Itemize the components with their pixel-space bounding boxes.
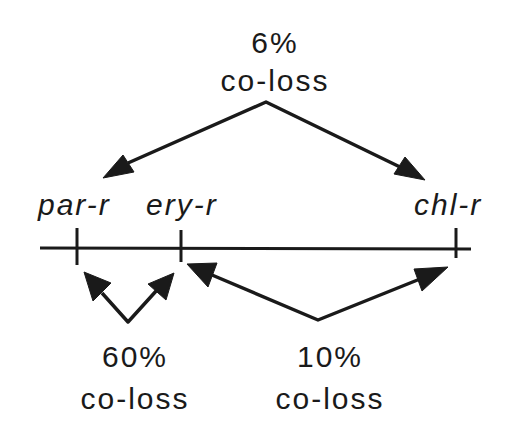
relation-percent: 10% [260, 342, 400, 380]
arrow-10pct [187, 263, 448, 320]
relation-percent: 60% [65, 342, 205, 380]
relation-label-10pct: 10% co-loss [260, 342, 400, 414]
gene-label-ery-r: ery-r [146, 190, 218, 220]
gene-label-chl-r: chl-r [414, 190, 482, 220]
arrow-60pct [84, 272, 174, 322]
gene-label-par-r: par-r [38, 190, 111, 220]
relation-caption: co-loss [260, 384, 400, 414]
arrow-6pct [103, 102, 425, 180]
relation-label-6pct: 6% co-loss [205, 28, 345, 96]
map-baseline [40, 248, 471, 249]
relation-label-60pct: 60% co-loss [65, 342, 205, 414]
relation-caption: co-loss [65, 384, 205, 414]
relation-caption: co-loss [205, 66, 345, 96]
relation-percent: 6% [205, 28, 345, 64]
